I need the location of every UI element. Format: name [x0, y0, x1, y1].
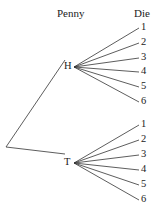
- leaf-t-4: 4: [141, 164, 146, 175]
- leaf-t-1: 1: [141, 119, 146, 130]
- penny-header: Penny: [57, 8, 85, 19]
- node-t: T: [64, 157, 70, 168]
- branch-t-2: [74, 140, 139, 163]
- leaf-h-5: 5: [141, 81, 146, 92]
- leaf-h-2: 2: [141, 37, 146, 48]
- branch-h: [6, 60, 65, 147]
- branch-h-5: [74, 67, 139, 87]
- node-h: H: [64, 61, 72, 72]
- leaf-h-6: 6: [141, 96, 146, 107]
- branch-t: [6, 147, 65, 154]
- die-header: Die: [134, 8, 150, 19]
- leaf-h-1: 1: [141, 22, 146, 33]
- leaf-t-2: 2: [141, 134, 146, 145]
- leaf-h-3: 3: [141, 52, 146, 63]
- branch-t-3: [74, 155, 139, 163]
- leaf-t-5: 5: [141, 179, 146, 190]
- branch-h-2: [74, 43, 139, 67]
- leaf-h-4: 4: [141, 66, 146, 77]
- branch-h-3: [74, 58, 139, 67]
- tree-diagram: [0, 0, 151, 208]
- branch-h-1: [74, 28, 139, 67]
- branch-h-6: [74, 67, 139, 102]
- leaf-t-6: 6: [141, 194, 146, 205]
- branch-t-1: [74, 125, 139, 163]
- branch-h-4: [74, 67, 139, 72]
- leaf-t-3: 3: [141, 149, 146, 160]
